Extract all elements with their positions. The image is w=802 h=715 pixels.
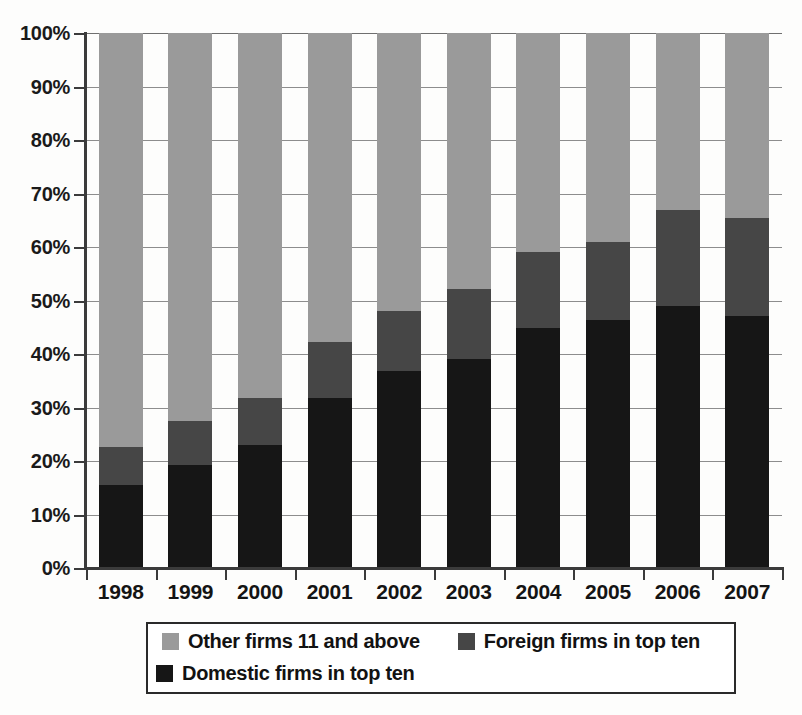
legend-entry-domestic-firms[interactable]: Domestic firms in top ten (156, 662, 415, 685)
bar-stack[interactable] (377, 33, 421, 568)
bar-segment-foreign[interactable] (447, 289, 491, 359)
bar-segment-domestic[interactable] (308, 398, 352, 568)
y-tick-mark (74, 87, 86, 89)
bar-segment-other[interactable] (238, 33, 282, 398)
bar-segment-foreign[interactable] (308, 342, 352, 398)
bar-segment-foreign[interactable] (516, 252, 560, 328)
bar-segment-other[interactable] (377, 33, 421, 311)
bar-stack[interactable] (99, 33, 143, 568)
bar-segment-other[interactable] (516, 33, 560, 252)
legend-entry-foreign-firms[interactable]: Foreign firms in top ten (458, 630, 700, 653)
legend-swatch-icon-foreign (458, 633, 475, 650)
bar-segment-domestic[interactable] (168, 465, 212, 568)
x-tick-label: 1998 (98, 580, 144, 604)
legend-entry-other-firms[interactable]: Other firms 11 and above (162, 630, 420, 653)
x-tick-label: 1999 (167, 580, 213, 604)
bar-segment-foreign[interactable] (725, 218, 769, 316)
x-tick-mark (643, 569, 645, 580)
bar-segment-other[interactable] (586, 33, 630, 242)
x-tick-label: 2004 (515, 580, 561, 604)
y-tick-mark (74, 194, 86, 196)
x-tick-label: 2002 (376, 580, 422, 604)
x-tick-label: 2000 (237, 580, 283, 604)
y-tick-label: 20% (4, 450, 70, 473)
x-tick-mark (712, 569, 714, 580)
x-tick-mark (86, 569, 88, 580)
y-tick-mark (74, 247, 86, 249)
legend-swatch-icon-other (162, 633, 179, 650)
bar-segment-foreign[interactable] (377, 311, 421, 371)
x-tick-mark (225, 569, 227, 580)
y-tick-label: 30% (4, 396, 70, 419)
bar-segment-domestic[interactable] (656, 306, 700, 568)
legend-row-top: Other firms 11 and above Foreign firms i… (162, 630, 700, 653)
x-tick-mark (434, 569, 436, 580)
bar-segment-domestic[interactable] (377, 371, 421, 568)
chart-legend: Other firms 11 and above Foreign firms i… (146, 622, 736, 694)
y-tick-label: 40% (4, 343, 70, 366)
bar-stack[interactable] (238, 33, 282, 568)
y-tick-mark (74, 354, 86, 356)
bar-segment-foreign[interactable] (168, 421, 212, 465)
x-tick-mark (504, 569, 506, 580)
y-tick-mark (74, 568, 86, 570)
bar-segment-other[interactable] (447, 33, 491, 289)
bar-segment-foreign[interactable] (656, 210, 700, 306)
x-tick-mark (782, 569, 784, 580)
bar-stack[interactable] (656, 33, 700, 568)
plot-area (86, 33, 782, 568)
bar-segment-other[interactable] (308, 33, 352, 342)
y-tick-mark (74, 515, 86, 517)
bar-stack[interactable] (586, 33, 630, 568)
bar-segment-other[interactable] (725, 33, 769, 218)
x-tick-label: 2001 (307, 580, 353, 604)
y-tick-mark (74, 461, 86, 463)
y-tick-label: 50% (4, 289, 70, 312)
y-tick-mark (74, 301, 86, 303)
bar-segment-domestic[interactable] (586, 320, 630, 568)
bar-segment-domestic[interactable] (516, 328, 560, 568)
x-tick-label: 2003 (446, 580, 492, 604)
y-tick-label: 60% (4, 236, 70, 259)
bar-segment-other[interactable] (168, 33, 212, 421)
y-tick-mark (74, 408, 86, 410)
y-tick-mark (74, 33, 86, 35)
bar-stack[interactable] (516, 33, 560, 568)
bar-stack[interactable] (168, 33, 212, 568)
bar-segment-domestic[interactable] (238, 445, 282, 568)
legend-row-bottom: Domestic firms in top ten (156, 662, 415, 685)
x-tick-mark (156, 569, 158, 580)
bar-stack[interactable] (308, 33, 352, 568)
x-tick-label: 2007 (724, 580, 770, 604)
x-tick-mark (573, 569, 575, 580)
bar-segment-domestic[interactable] (447, 359, 491, 568)
x-tick-label: 2006 (655, 580, 701, 604)
y-tick-label: 90% (4, 75, 70, 98)
legend-swatch-icon-domestic (156, 665, 173, 682)
y-tick-mark (74, 140, 86, 142)
legend-label-other: Other firms 11 and above (188, 630, 420, 653)
bar-segment-foreign[interactable] (586, 242, 630, 320)
stacked-bar-chart: 0%10%20%30%40%50%60%70%80%90%100% 199819… (0, 0, 802, 715)
bar-segment-foreign[interactable] (99, 447, 143, 485)
legend-label-foreign: Foreign firms in top ten (484, 630, 700, 653)
y-tick-label: 10% (4, 503, 70, 526)
x-tick-label: 2005 (585, 580, 631, 604)
y-tick-label: 80% (4, 129, 70, 152)
y-axis-labels: 0%10%20%30%40%50%60%70%80%90%100% (0, 0, 70, 715)
y-tick-label: 70% (4, 182, 70, 205)
x-tick-mark (364, 569, 366, 580)
y-tick-label: 0% (4, 557, 70, 580)
bar-segment-other[interactable] (656, 33, 700, 210)
bar-segment-other[interactable] (99, 33, 143, 447)
bar-segment-domestic[interactable] (725, 316, 769, 568)
bar-segment-domestic[interactable] (99, 485, 143, 568)
bar-segment-foreign[interactable] (238, 398, 282, 445)
bar-stack[interactable] (447, 33, 491, 568)
x-tick-mark (295, 569, 297, 580)
y-tick-label: 100% (4, 22, 70, 45)
bar-stack[interactable] (725, 33, 769, 568)
legend-label-domestic: Domestic firms in top ten (182, 662, 415, 685)
